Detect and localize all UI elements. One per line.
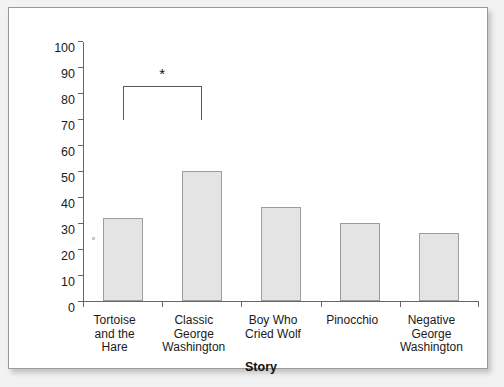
- x-axis-category-label: Pinocchio: [326, 314, 378, 328]
- y-axis-tick: [78, 223, 83, 224]
- y-axis-tick: [78, 171, 83, 172]
- x-axis-title: Story: [9, 360, 504, 374]
- x-axis-category-label: Boy Who Cried Wolf: [245, 314, 301, 341]
- y-axis-tick: [78, 275, 83, 276]
- bar: [182, 171, 222, 301]
- y-axis-tick: [78, 41, 83, 42]
- x-axis-tick: [162, 302, 163, 307]
- x-axis-tick: [478, 302, 479, 307]
- scan-speck: [92, 237, 95, 240]
- y-axis-tick: [78, 249, 83, 250]
- x-axis-line: [83, 301, 479, 302]
- bar: [419, 233, 459, 301]
- y-axis-line: [83, 42, 84, 302]
- x-axis-tick: [241, 302, 242, 307]
- significance-asterisk: *: [159, 66, 165, 81]
- y-axis-tick: [78, 119, 83, 120]
- figure-root: Peekers Who Told the Truth (%) 010203040…: [0, 0, 504, 387]
- plot-area: 0102030405060708090100 *: [83, 42, 479, 302]
- y-axis-tick: [78, 67, 83, 68]
- y-axis-tick: [78, 197, 83, 198]
- figure-card: Peekers Who Told the Truth (%) 010203040…: [8, 7, 488, 369]
- significance-bracket: [123, 86, 202, 120]
- x-axis-tick: [321, 302, 322, 307]
- x-axis-category-label: Classic George Washington: [162, 314, 225, 355]
- x-axis-category-label: Tortoise and the Hare: [94, 314, 136, 355]
- bar: [103, 218, 143, 301]
- x-axis-category-label: Negative George Washington: [400, 314, 463, 355]
- bar: [340, 223, 380, 301]
- y-axis-tick: [78, 145, 83, 146]
- y-axis-tick: [78, 93, 83, 94]
- bar: [261, 207, 301, 301]
- x-axis-tick: [400, 302, 401, 307]
- x-axis-tick: [83, 302, 84, 307]
